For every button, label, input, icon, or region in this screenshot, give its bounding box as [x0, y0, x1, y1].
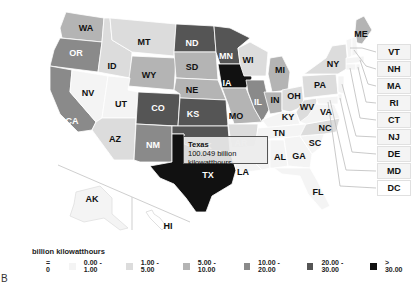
svg-text:MN: MN	[219, 51, 233, 61]
panel-letter: B	[1, 273, 8, 284]
state-CT[interactable]	[346, 64, 356, 70]
svg-text:UT: UT	[115, 99, 127, 109]
legend-label: 10.00 - 20.00	[258, 259, 291, 273]
legend: billion kilowatthours = 00.00 - 1.001.00…	[32, 247, 420, 273]
legend-swatch	[307, 263, 313, 270]
legend-label: 1.00 - 5.00	[141, 259, 168, 273]
svg-text:NM: NM	[146, 140, 160, 150]
legend-item: 20.00 - 30.00	[307, 259, 354, 273]
svg-text:WV: WV	[300, 102, 315, 112]
legend-swatch	[69, 263, 75, 270]
svg-text:SD: SD	[186, 62, 199, 72]
svg-text:TX: TX	[202, 170, 214, 180]
svg-text:AL: AL	[274, 152, 286, 162]
svg-text:NE: NE	[186, 85, 199, 95]
svg-text:AK: AK	[86, 194, 99, 204]
svg-text:WI: WI	[243, 55, 254, 65]
svg-text:HI: HI	[164, 221, 173, 231]
state-box-nh[interactable]: NH	[377, 61, 411, 77]
legend-label: = 0	[46, 259, 53, 273]
svg-text:ND: ND	[186, 38, 199, 48]
svg-text:LA: LA	[237, 167, 249, 177]
svg-text:TN: TN	[273, 128, 285, 138]
legend-swatch	[370, 263, 376, 270]
state-box-ct[interactable]: CT	[377, 112, 411, 128]
legend-items: = 00.00 - 1.001.00 - 5.005.00 - 10.0010.…	[32, 259, 420, 273]
svg-text:WY: WY	[142, 70, 157, 80]
legend-swatch	[126, 263, 132, 270]
state-box-dc[interactable]: DC	[377, 180, 411, 196]
legend-item: 1.00 - 5.00	[126, 259, 167, 273]
legend-label: 20.00 - 30.00	[321, 259, 354, 273]
state-AK[interactable]	[70, 186, 128, 230]
legend-swatch	[183, 263, 189, 270]
tooltip-state-name: Texas	[188, 140, 263, 149]
svg-text:IN: IN	[271, 95, 280, 105]
svg-text:WA: WA	[79, 23, 94, 33]
state-box-vt[interactable]: VT	[377, 44, 411, 60]
legend-item: 0.00 - 1.00	[69, 259, 110, 273]
state-box-nj[interactable]: NJ	[377, 129, 411, 145]
legend-label: > 30.00	[385, 259, 404, 273]
state-box-md[interactable]: MD	[377, 163, 411, 179]
svg-text:CO: CO	[151, 103, 165, 113]
legend-item: 10.00 - 20.00	[244, 259, 291, 273]
svg-text:KY: KY	[282, 112, 295, 122]
state-NE[interactable]	[174, 78, 226, 100]
legend-swatch	[32, 263, 38, 270]
svg-text:MI: MI	[275, 65, 285, 75]
svg-text:ME: ME	[354, 29, 368, 39]
state-KS[interactable]	[178, 98, 228, 126]
legend-item: > 30.00	[370, 259, 404, 273]
svg-text:MO: MO	[229, 111, 244, 121]
legend-title: billion kilowatthours	[32, 247, 420, 256]
state-NJ[interactable]	[338, 76, 344, 94]
state-box-ma[interactable]: MA	[377, 78, 411, 94]
svg-text:KS: KS	[187, 109, 200, 119]
legend-swatch	[244, 263, 250, 270]
svg-text:MT: MT	[138, 37, 151, 47]
svg-text:IL: IL	[254, 97, 263, 107]
legend-item: 5.00 - 10.00	[183, 259, 227, 273]
svg-text:VA: VA	[320, 107, 332, 117]
legend-label: 5.00 - 10.00	[198, 259, 228, 273]
svg-text:CA: CA	[66, 116, 79, 126]
svg-text:NY: NY	[327, 59, 340, 69]
svg-text:GA: GA	[292, 151, 306, 161]
svg-text:NV: NV	[82, 88, 95, 98]
svg-text:OR: OR	[69, 48, 83, 58]
tooltip-value: 100.049 billion kilowatthours	[188, 149, 263, 167]
svg-text:SC: SC	[309, 138, 322, 148]
svg-text:OH: OH	[287, 91, 301, 101]
svg-text:ID: ID	[108, 61, 118, 71]
hover-tooltip: Texas 100.049 billion kilowatthours	[183, 136, 268, 164]
state-MD[interactable]	[316, 96, 338, 104]
legend-item: = 0	[32, 259, 53, 273]
svg-text:NC: NC	[319, 123, 332, 133]
state-box-ri[interactable]: RI	[377, 95, 411, 111]
svg-text:AZ: AZ	[109, 134, 121, 144]
svg-text:FL: FL	[313, 187, 324, 197]
svg-text:PA: PA	[314, 80, 326, 90]
state-box-de[interactable]: DE	[377, 146, 411, 162]
legend-label: 0.00 - 1.00	[84, 259, 111, 273]
svg-text:IA: IA	[223, 78, 233, 88]
